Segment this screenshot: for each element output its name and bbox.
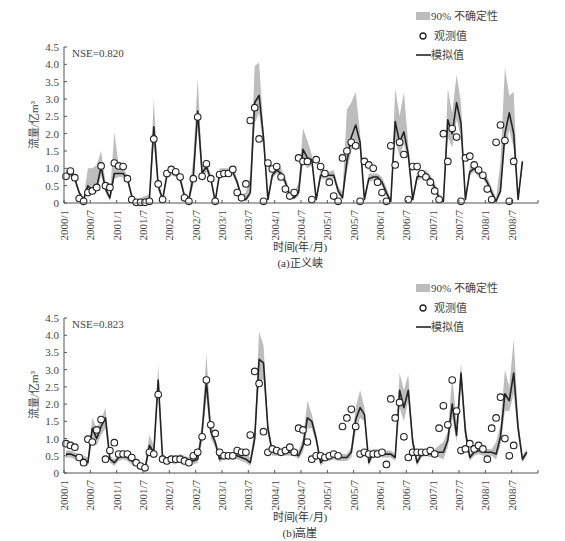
observed-point bbox=[80, 459, 87, 466]
observed-point bbox=[107, 184, 114, 191]
observed-point bbox=[352, 423, 359, 430]
legend: 90% 不确定性观测值模拟值 bbox=[416, 281, 498, 333]
observed-point bbox=[72, 174, 79, 181]
observed-point bbox=[212, 430, 219, 437]
observed-point bbox=[431, 451, 438, 458]
observed-point bbox=[72, 444, 79, 451]
observed-point bbox=[488, 425, 495, 432]
x-tick-label: 2007/1 bbox=[427, 210, 439, 241]
x-tick-label: 2001/1 bbox=[111, 210, 123, 241]
x-tick-label: 2006/7 bbox=[400, 480, 412, 511]
chart-caption: (b)高崖 bbox=[283, 526, 318, 540]
legend-simulated-label: 模拟值 bbox=[431, 320, 464, 333]
chart-caption: (a)正义峡 bbox=[277, 256, 322, 270]
legend-band-swatch bbox=[416, 284, 430, 292]
observed-point bbox=[212, 198, 219, 205]
y-tick-label: 1.0 bbox=[45, 162, 59, 174]
x-tick-label: 2005/1 bbox=[321, 210, 333, 241]
observed-point bbox=[159, 196, 166, 203]
observed-point bbox=[151, 451, 158, 458]
observed-point bbox=[510, 442, 517, 449]
observed-point bbox=[300, 427, 307, 434]
y-tick-label: 3.0 bbox=[45, 93, 59, 105]
x-tick-label: 2003/7 bbox=[242, 480, 254, 511]
y-tick-label: 1.5 bbox=[45, 415, 59, 427]
observed-point bbox=[322, 170, 329, 177]
observed-point bbox=[506, 453, 513, 460]
observed-point bbox=[493, 415, 500, 422]
observed-point bbox=[335, 198, 342, 205]
observed-point bbox=[352, 143, 359, 150]
observed-point bbox=[278, 174, 285, 181]
observed-point bbox=[427, 179, 434, 186]
x-tick-label: 2005/7 bbox=[348, 210, 360, 241]
observed-point bbox=[304, 439, 311, 446]
x-tick-label: 2002/1 bbox=[163, 210, 175, 241]
y-tick-label: 2.0 bbox=[45, 128, 59, 140]
observed-point bbox=[388, 143, 395, 150]
legend: 90% 不确定性观测值模拟值 bbox=[416, 9, 498, 61]
x-tick-label: 2000/1 bbox=[58, 480, 70, 511]
x-tick-label: 2007/7 bbox=[453, 480, 465, 511]
x-tick-label: 2008/1 bbox=[479, 210, 491, 241]
observed-point bbox=[230, 166, 237, 173]
observed-point bbox=[282, 186, 289, 193]
observed-point bbox=[194, 449, 201, 456]
observed-point bbox=[256, 136, 263, 143]
observed-point bbox=[392, 415, 399, 422]
observed-point bbox=[260, 428, 267, 435]
x-axis-label: 时间(年/月) bbox=[273, 510, 328, 524]
observed-point bbox=[124, 175, 131, 182]
observed-point bbox=[396, 399, 403, 406]
observed-point bbox=[497, 122, 504, 129]
observed-point bbox=[401, 434, 408, 441]
legend-band-label: 90% 不确定性 bbox=[431, 9, 498, 22]
y-tick-label: 4.5 bbox=[45, 312, 59, 324]
observed-point bbox=[186, 198, 193, 205]
y-axis-label: 流量/亿m³ bbox=[27, 100, 40, 149]
x-tick-label: 2004/7 bbox=[295, 210, 307, 241]
x-tick-label: 2006/7 bbox=[400, 210, 412, 241]
x-axis-label: 时间(年/月) bbox=[273, 240, 328, 254]
x-tick-label: 2008/7 bbox=[506, 480, 518, 511]
y-tick-label: 1.0 bbox=[45, 433, 59, 445]
observed-point bbox=[436, 196, 443, 203]
observed-point bbox=[339, 423, 346, 430]
observed-point bbox=[203, 377, 210, 384]
observed-point bbox=[480, 446, 487, 453]
observed-point bbox=[431, 188, 438, 195]
y-tick-label: 4.0 bbox=[45, 329, 59, 341]
x-tick-label: 2005/7 bbox=[348, 480, 360, 511]
x-tick-label: 2006/1 bbox=[374, 210, 386, 241]
observed-point bbox=[208, 422, 215, 429]
observed-point bbox=[357, 198, 364, 205]
observed-point bbox=[510, 158, 517, 165]
observed-point bbox=[493, 139, 500, 146]
figure-canvas: 00.51.01.52.02.53.03.54.04.52000/12000/7… bbox=[0, 0, 565, 541]
x-tick-label: 2006/1 bbox=[374, 480, 386, 511]
observed-point bbox=[291, 189, 298, 196]
observed-point bbox=[93, 427, 100, 434]
y-tick-label: 0.5 bbox=[45, 450, 59, 462]
observed-point bbox=[370, 165, 377, 172]
observed-point bbox=[251, 104, 258, 111]
chart-a: 00.51.01.52.02.53.03.54.04.52000/12000/7… bbox=[27, 9, 538, 270]
y-tick-label: 3.5 bbox=[45, 76, 59, 88]
observed-point bbox=[449, 377, 456, 384]
legend-observed-label: 观测值 bbox=[434, 30, 467, 42]
observed-point bbox=[190, 175, 197, 182]
y-tick-label: 4.0 bbox=[45, 58, 59, 70]
x-tick-label: 2004/7 bbox=[295, 480, 307, 511]
x-tick-label: 2002/7 bbox=[190, 210, 202, 241]
x-tick-label: 2004/1 bbox=[269, 480, 281, 511]
observed-point bbox=[243, 181, 250, 188]
observed-point bbox=[151, 136, 158, 143]
observed-point bbox=[445, 158, 452, 165]
x-tick-label: 2003/1 bbox=[216, 210, 228, 241]
observed-point bbox=[304, 158, 311, 165]
x-tick-label: 2002/1 bbox=[163, 480, 175, 511]
y-tick-label: 4.5 bbox=[45, 41, 59, 53]
observed-point bbox=[111, 439, 118, 446]
observed-point bbox=[102, 456, 109, 463]
y-tick-label: 0.5 bbox=[45, 180, 59, 192]
